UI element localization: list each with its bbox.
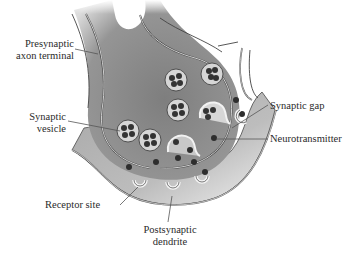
label-neurotransmitter: Neurotransmitter xyxy=(270,133,342,145)
label-synaptic-gap: Synaptic gap xyxy=(270,100,325,112)
vesicle xyxy=(167,99,189,121)
vesicle xyxy=(165,69,187,91)
label-presynaptic: Presynaptic axon terminal xyxy=(10,38,74,62)
vesicle xyxy=(139,129,161,151)
synapse-diagram: Presynaptic axon terminal Synaptic vesic… xyxy=(0,0,355,257)
vesicle xyxy=(201,63,223,85)
vesicle xyxy=(117,120,139,142)
label-receptor-site: Receptor site xyxy=(45,199,100,211)
label-postsynaptic: Postsynaptic dendrite xyxy=(130,224,210,248)
label-synaptic-vesicle: Synaptic vesicle xyxy=(10,111,66,135)
